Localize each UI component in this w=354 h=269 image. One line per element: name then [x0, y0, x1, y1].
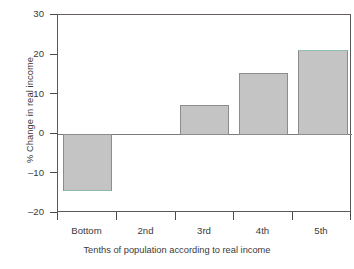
- y-axis-tick-labels: 30 20 10 0 –10 –20: [18, 0, 44, 269]
- x-category-label-5th: 5th: [292, 225, 350, 236]
- y-tick-label: 30: [18, 9, 44, 19]
- x-tick-mark: [175, 212, 176, 220]
- x-tick-mark: [350, 212, 351, 220]
- chart-figure: % Change in real income 30 20 10 0 –10 –…: [0, 0, 354, 269]
- x-tick-mark: [233, 212, 234, 220]
- x-axis-title: Tenths of population according to real i…: [0, 245, 354, 255]
- y-tick-mark: [50, 172, 57, 173]
- y-tick-mark: [50, 133, 57, 134]
- x-tick-mark: [57, 212, 58, 220]
- x-category-label-4th: 4th: [233, 225, 292, 236]
- x-tick-mark: [292, 212, 293, 220]
- y-tick-label: –10: [18, 168, 44, 178]
- bar-5th[interactable]: [298, 50, 348, 135]
- y-tick-mark: [50, 212, 57, 213]
- y-tick-mark: [50, 14, 57, 15]
- x-category-label-3rd: 3rd: [175, 225, 233, 236]
- y-tick-mark: [50, 54, 57, 55]
- bar-bottom[interactable]: [63, 134, 112, 191]
- x-category-label-2nd: 2nd: [116, 225, 175, 236]
- y-tick-mark: [50, 93, 57, 94]
- y-tick-label: 20: [18, 49, 44, 59]
- x-tick-mark: [116, 212, 117, 220]
- x-category-label-bottom: Bottom: [57, 225, 116, 236]
- y-tick-label: 0: [18, 128, 44, 138]
- bar-3rd[interactable]: [180, 105, 229, 135]
- plot-area: [57, 14, 351, 212]
- bar-4th[interactable]: [239, 73, 288, 135]
- y-tick-label: 10: [18, 89, 44, 99]
- y-tick-label: –20: [18, 207, 44, 217]
